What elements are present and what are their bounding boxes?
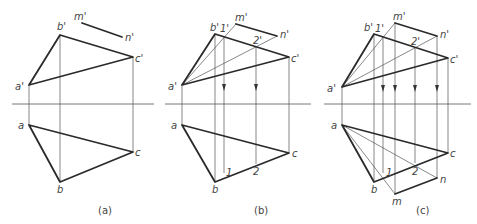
label-1-prime: 1' — [220, 23, 229, 34]
label-a: a — [171, 120, 177, 131]
arrow-down-icon — [381, 85, 385, 92]
label-a-prime: a' — [168, 81, 177, 92]
label-b-prime: b' — [57, 21, 66, 32]
label-c-prime: c' — [450, 54, 458, 65]
caption-c: (c) — [416, 205, 429, 216]
arrow-down-icon — [222, 84, 226, 91]
label-c-prime: c' — [291, 53, 299, 64]
line-mn-front — [82, 23, 122, 37]
label-m: m — [392, 196, 402, 207]
arrow-down-icon — [435, 85, 439, 92]
label-m-prime: m' — [393, 11, 406, 22]
caption-a: (a) — [98, 205, 112, 216]
line-mn-top — [395, 178, 437, 194]
triangle-top-view — [29, 125, 133, 182]
label-m-prime: m' — [74, 11, 87, 22]
aux-line-a-n-front — [342, 36, 437, 87]
label-n-prime: n' — [440, 29, 449, 40]
triangle-front-view — [182, 34, 289, 85]
label-a: a — [18, 120, 24, 131]
label-m-prime: m' — [235, 12, 248, 23]
label-c: c — [135, 147, 141, 158]
label-b-prime: b' — [364, 22, 373, 33]
caption-b: (b) — [254, 205, 268, 216]
label-1: 1 — [226, 167, 232, 178]
label-c-prime: c' — [135, 53, 143, 64]
panel-b: b' 1' m' n' 2' c' a' a c 1 2 b (b) — [165, 12, 311, 216]
label-1-prime: 1' — [375, 23, 384, 34]
label-n-prime: n' — [125, 32, 134, 43]
label-2-prime: 2' — [411, 36, 420, 47]
label-c: c — [292, 148, 298, 159]
label-b-prime: b' — [210, 22, 219, 33]
label-b: b — [212, 184, 218, 195]
line-mn-front — [395, 23, 437, 36]
aux-line-a-m-top — [342, 125, 395, 194]
label-2: 2 — [253, 166, 259, 177]
arrow-down-icon — [413, 85, 417, 92]
label-a-prime: a' — [327, 83, 336, 94]
panel-a: b' m' n' c' a' a c b (a) — [12, 11, 154, 216]
panel-c: b' 1' m' n' 2' c' a' a c 1 2 n b m (c) — [324, 11, 471, 216]
label-c: c — [450, 148, 456, 159]
arrow-down-icon — [393, 85, 397, 92]
triangle-front-view — [29, 35, 133, 85]
arrow-down-icon — [254, 84, 258, 91]
label-2-prime: 2' — [253, 35, 262, 46]
projection-diagram: b' m' n' c' a' a c b (a) b' 1' m' n' 2' — [0, 0, 477, 224]
label-a-prime: a' — [15, 81, 24, 92]
aux-line-a-n — [182, 36, 277, 85]
label-b: b — [371, 184, 377, 195]
label-1: 1 — [386, 167, 392, 178]
label-b: b — [57, 184, 63, 195]
triangle-top-view — [182, 125, 289, 182]
label-n: n — [440, 174, 446, 185]
label-n-prime: n' — [280, 29, 289, 40]
label-2: 2 — [412, 166, 418, 177]
label-a: a — [331, 120, 337, 131]
